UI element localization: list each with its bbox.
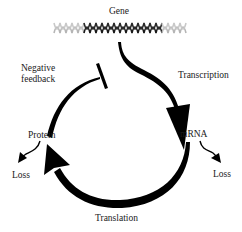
- mrna-loss-label: Loss: [213, 169, 231, 180]
- negative-feedback-label-line2: feedback: [21, 74, 55, 85]
- mrna-label: mRNA: [180, 129, 207, 140]
- negative-feedback-label-line1: Negative: [21, 63, 55, 74]
- protein-loss-label: Loss: [12, 170, 30, 181]
- translation-label: Translation: [95, 213, 138, 224]
- gene-regulation-diagram: Gene Transcription Negative feedback Pro…: [0, 0, 242, 232]
- protein-loss-arrow-icon: [18, 141, 40, 163]
- transcription-label: Transcription: [178, 70, 229, 81]
- dna-helix-icon: [54, 23, 186, 33]
- mrna-loss-arrow-icon: [200, 141, 221, 163]
- gene-label: Gene: [109, 6, 129, 17]
- diagram-graphics: [0, 0, 242, 232]
- protein-label: Protein: [28, 130, 55, 141]
- translation-arrow-icon: [44, 142, 190, 208]
- negative-feedback-inhibitor-icon: [47, 63, 108, 138]
